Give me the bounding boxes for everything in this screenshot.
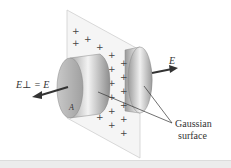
gaussian-label-line2: surface — [178, 130, 207, 141]
field-arrow-right — [152, 65, 178, 73]
gaussian-surface-diagram: ++ ++ ++ ++ ++ ++ ++ ++ + E — [0, 0, 231, 168]
right-cylinder — [125, 47, 152, 113]
e-label: E — [169, 55, 175, 66]
svg-text:+: + — [120, 72, 128, 82]
bottom-band — [0, 160, 231, 168]
svg-text:+: + — [120, 128, 128, 138]
svg-text:+: + — [120, 86, 128, 96]
svg-text:+: + — [96, 42, 104, 52]
svg-text:+: + — [120, 114, 128, 124]
area-label: A — [69, 102, 74, 113]
svg-text:+: + — [72, 26, 80, 36]
svg-text:+: + — [108, 50, 116, 60]
left-cylinder — [57, 54, 110, 118]
svg-text:+: + — [108, 120, 116, 130]
svg-text:+: + — [108, 106, 116, 116]
svg-text:+: + — [72, 38, 80, 48]
svg-text:+: + — [120, 58, 128, 68]
svg-text:+: + — [84, 34, 92, 44]
gaussian-label-line1: Gaussian — [175, 118, 212, 129]
e-perp-label: E⊥ = E — [16, 79, 49, 90]
